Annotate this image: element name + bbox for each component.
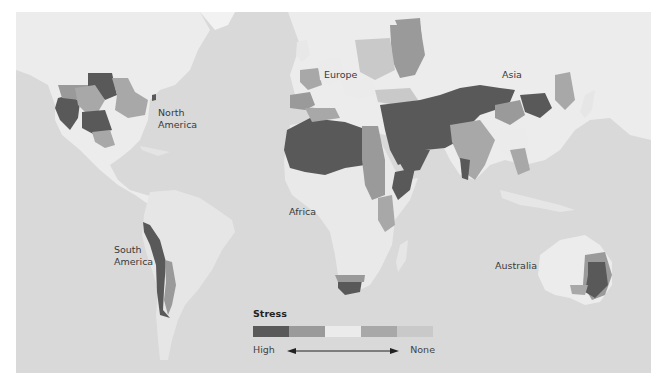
label-north-america: North America	[158, 107, 197, 131]
legend-swatch-1	[253, 326, 289, 337]
na-region-east-point	[152, 94, 156, 101]
double-arrow-icon	[287, 347, 399, 355]
africa-region-south-ring	[335, 275, 365, 282]
legend-none-label: None	[410, 344, 435, 355]
legend-high-label: High	[253, 344, 275, 355]
label-australia: Australia	[495, 260, 537, 272]
label-south-america: South America	[114, 244, 153, 268]
world-map: North America South America Europe Asia …	[16, 12, 651, 373]
label-asia: Asia	[502, 69, 522, 81]
legend-swatch-5	[397, 326, 433, 337]
legend-swatch-3	[325, 326, 361, 337]
legend-swatch-4	[361, 326, 397, 337]
legend-swatches	[253, 326, 433, 337]
label-north-america-line1: North	[158, 107, 197, 119]
label-north-america-line2: America	[158, 119, 197, 131]
australia-region-south	[570, 285, 588, 295]
legend-swatch-2	[289, 326, 325, 337]
label-south-america-line1: South	[114, 244, 153, 256]
stress-legend: Stress High None	[253, 308, 435, 358]
label-europe: Europe	[324, 69, 357, 81]
label-africa: Africa	[289, 206, 316, 218]
africa-region-sahara	[284, 118, 365, 175]
label-south-america-line2: America	[114, 256, 153, 268]
legend-title: Stress	[253, 308, 287, 319]
